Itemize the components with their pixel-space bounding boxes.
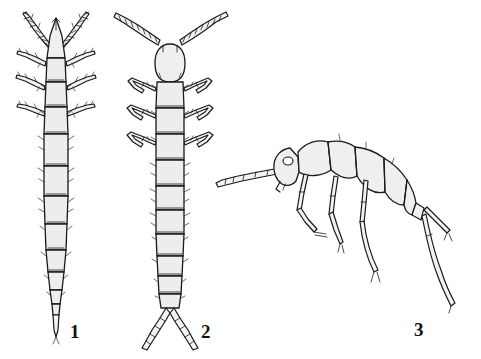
figure-3-thorax [298, 141, 357, 178]
figure-3-head [274, 148, 299, 192]
figure-label-1: 1 [70, 322, 80, 341]
specimen-figure-3 [216, 134, 455, 313]
figure-3-legs [297, 174, 380, 282]
figure-plate: .ln { fill:none; stroke:#1a1a1a; stroke-… [0, 0, 481, 359]
figure-1-head [46, 18, 66, 58]
specimen-figure-2 [114, 12, 228, 350]
figure-label-2: 2 [201, 322, 211, 341]
figure-2-head [155, 44, 185, 82]
figure-3-antenna [216, 168, 282, 187]
figure-1-antenna-left [23, 12, 50, 47]
figure-1-antenna-right [62, 12, 89, 47]
specimen-figure-1 [16, 12, 96, 344]
specimen-illustrations: .ln { fill:none; stroke:#1a1a1a; stroke-… [0, 0, 481, 359]
figure-3-cerci [422, 207, 455, 313]
figure-2-antenna-right [180, 12, 228, 45]
figure-2-cerci [142, 308, 198, 350]
figure-2-body-segments [156, 82, 184, 308]
figure-2-antenna-left [114, 13, 160, 45]
figure-1-body-segments [44, 58, 68, 337]
figure-label-3: 3 [414, 320, 424, 339]
